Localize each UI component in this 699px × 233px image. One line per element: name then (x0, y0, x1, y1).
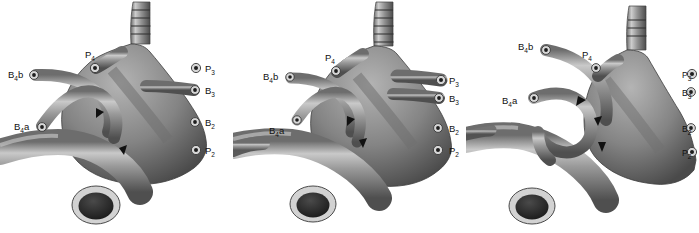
label-b2-b: B2 (449, 123, 459, 136)
bronchial-anatomy-figure: B4b B4a P4 P3 B3 B2 P2 (0, 0, 699, 233)
label-p4-a: P4 (85, 49, 95, 62)
label-p4-c: P4 (582, 49, 592, 62)
label-b4b-a: B4b (8, 69, 23, 82)
label-p3-b: P3 (449, 75, 459, 88)
label-p3-a: P3 (205, 63, 215, 76)
label-b3-a: B3 (205, 85, 215, 98)
panel-a: B4b B4a P4 P3 B3 B2 P2 (0, 0, 233, 233)
airway-illustration-c (466, 6, 697, 224)
panel-b: B4b B4a P4 P3 B3 B2 P2 (233, 0, 466, 233)
panel-c: B4b B4a P4 P3 B3 B2 P2 (466, 0, 699, 233)
branch-p3-b (397, 76, 441, 80)
main-bronchus-a (0, 142, 140, 192)
airway-illustration-b (233, 2, 452, 222)
airway-illustration-a (0, 2, 207, 224)
label-b2-a: B2 (205, 117, 215, 130)
label-b3-b: B3 (449, 93, 459, 106)
bronchial-stump-c (509, 188, 555, 224)
trachea-a (131, 2, 151, 44)
trachea-b (374, 2, 394, 46)
bronchial-stump-b (290, 186, 336, 222)
label-b4a-a: B4a (14, 121, 30, 134)
label-p4-b: P4 (325, 52, 335, 65)
label-p2-b: P2 (449, 145, 459, 158)
label-b4b-b: B4b (263, 71, 278, 84)
label-b4a-b: B4a (269, 125, 285, 138)
trachea-c (627, 6, 647, 50)
bronchial-stump-a (72, 186, 120, 224)
label-b4a-c: B4a (502, 95, 518, 108)
label-b4b-c: B4b (518, 41, 533, 54)
label-p2-a: P2 (205, 145, 215, 158)
branch-b3-a (146, 86, 194, 90)
branch-b3-b (393, 94, 439, 98)
